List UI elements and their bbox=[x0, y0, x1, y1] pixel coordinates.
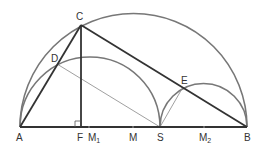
label-M1-main: M bbox=[88, 132, 96, 143]
point-M-dot bbox=[132, 126, 134, 128]
label-M2-sub: 2 bbox=[207, 137, 211, 144]
label-S: S bbox=[157, 132, 164, 143]
segment-DS bbox=[57, 64, 160, 127]
label-C: C bbox=[76, 11, 83, 22]
point-M1-dot bbox=[88, 126, 90, 128]
label-E: E bbox=[181, 75, 188, 86]
label-M1-sub: 1 bbox=[96, 137, 100, 144]
label-M: M bbox=[129, 132, 137, 143]
label-M2: M2 bbox=[199, 132, 211, 144]
segment-AC bbox=[20, 25, 81, 127]
label-M2-main: M bbox=[199, 132, 207, 143]
label-D: D bbox=[51, 53, 58, 64]
label-A: A bbox=[16, 132, 23, 143]
segment-CB bbox=[81, 25, 247, 127]
semicircle-SB-arc bbox=[160, 84, 247, 127]
label-B: B bbox=[244, 132, 251, 143]
geometry-diagram: A B C D E F M1 M S M2 bbox=[0, 0, 263, 153]
label-M1: M1 bbox=[88, 132, 100, 144]
segment-SE bbox=[160, 87, 183, 127]
point-M2-dot bbox=[203, 126, 205, 128]
label-F: F bbox=[77, 132, 83, 143]
